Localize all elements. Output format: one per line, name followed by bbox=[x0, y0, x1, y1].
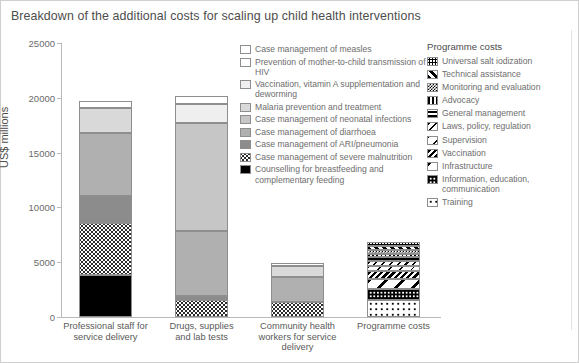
y-tick-mark bbox=[57, 153, 62, 154]
legend-item-label: Technical assistance bbox=[442, 69, 521, 79]
chart-page: Breakdown of the additional costs for sc… bbox=[0, 0, 579, 363]
legend-item-label: Vaccination, vitamin A supplementation a… bbox=[255, 79, 430, 99]
legend-item-label: Counselling for breastfeeding and comple… bbox=[255, 164, 430, 184]
y-tick-mark bbox=[57, 317, 62, 318]
legend-item: Universal salt iodization bbox=[427, 56, 573, 66]
legend-item-label: Malaria prevention and treatment bbox=[255, 102, 381, 112]
legend-item-label: Monitoring and evaluation bbox=[442, 82, 540, 92]
bar-segment bbox=[367, 250, 420, 254]
y-tick-label: 15000 bbox=[29, 147, 55, 158]
legend-swatch-icon bbox=[427, 136, 438, 145]
legend-swatch-icon bbox=[240, 115, 251, 124]
legend-item-label: Case management of neonatal infections bbox=[255, 114, 411, 124]
legend-item: Supervision bbox=[427, 135, 573, 145]
legend-item: Information, education, communication bbox=[427, 174, 573, 194]
x-axis-category-label: Programme costs bbox=[342, 321, 446, 332]
legend-item: Training bbox=[427, 197, 573, 207]
legend-item-label: Advocacy bbox=[442, 95, 479, 105]
bar-segment bbox=[367, 254, 420, 257]
bar-segment bbox=[79, 108, 132, 133]
legend-swatch-icon bbox=[240, 80, 251, 89]
legend-item-label: Case management of measles bbox=[255, 44, 372, 54]
legend-item: Case management of severe malnutrition bbox=[240, 152, 430, 162]
bar-segment bbox=[367, 300, 420, 317]
bar-segment bbox=[271, 266, 324, 277]
legend-swatch-icon bbox=[240, 103, 251, 112]
legend-item: General management bbox=[427, 108, 573, 118]
bar-segment bbox=[175, 296, 228, 300]
legend-item-label: Infrastructure bbox=[442, 161, 493, 171]
legend-swatch-icon bbox=[240, 153, 251, 162]
legend-item-label: Case management of severe malnutrition bbox=[255, 152, 412, 162]
bar-segment bbox=[367, 266, 420, 271]
legend-item: Vaccination, vitamin A supplementation a… bbox=[240, 79, 430, 99]
legend-swatch-icon bbox=[240, 58, 251, 67]
bar-segment bbox=[271, 302, 324, 317]
bar-segment bbox=[79, 223, 132, 275]
legend-swatch-icon bbox=[427, 96, 438, 105]
y-tick-label: 5000 bbox=[34, 257, 55, 268]
x-axis-category-label: Community healthworkers for servicedeliv… bbox=[246, 321, 350, 353]
bar-segment bbox=[79, 275, 132, 317]
legend-swatch-icon bbox=[427, 83, 438, 92]
legend-interventions: Case management of measlesPrevention of … bbox=[240, 44, 430, 187]
legend-item-label: Universal salt iodization bbox=[442, 56, 532, 66]
bar-segment bbox=[367, 279, 420, 289]
y-tick-mark bbox=[57, 43, 62, 44]
bar-stack bbox=[79, 43, 132, 317]
x-axis-category-label: Drugs, suppliesand lab tests bbox=[150, 321, 254, 342]
legend-item-label: Laws, policy, regulation bbox=[442, 121, 531, 131]
legend-swatch-icon bbox=[240, 45, 251, 54]
legend-item: Monitoring and evaluation bbox=[427, 82, 573, 92]
y-tick-mark bbox=[57, 262, 62, 263]
legend-item-label: Supervision bbox=[442, 135, 487, 145]
legend-item-label: Training bbox=[442, 197, 473, 207]
bar-segment bbox=[175, 123, 228, 231]
bar-segment bbox=[271, 263, 324, 266]
legend-item: Prevention of mother-to-child transmissi… bbox=[240, 57, 430, 77]
legend-swatch-icon bbox=[427, 57, 438, 66]
bar-segment bbox=[367, 246, 420, 250]
bar-segment bbox=[367, 261, 420, 266]
legend-swatch-icon bbox=[240, 128, 251, 137]
bar-segment bbox=[175, 104, 228, 123]
frame-border-top bbox=[0, 0, 579, 1]
legend-item: Vaccination bbox=[427, 148, 573, 158]
y-axis-ticks: 2500020000150001000050000 bbox=[0, 0, 55, 363]
bar-segment bbox=[367, 257, 420, 261]
bar-segment bbox=[79, 196, 132, 223]
legend-item: Case management of diarrhoea bbox=[240, 127, 430, 137]
legend-swatch-icon bbox=[427, 198, 438, 207]
legend-programme-costs: Programme costs Universal salt iodizatio… bbox=[427, 41, 573, 210]
legend-swatch-icon bbox=[427, 162, 438, 171]
bar-segment bbox=[367, 271, 420, 279]
legend-programme-costs-heading: Programme costs bbox=[427, 41, 573, 52]
legend-item-label: Vaccination bbox=[442, 148, 486, 158]
legend-item: Advocacy bbox=[427, 95, 573, 105]
legend-item: Infrastructure bbox=[427, 161, 573, 171]
legend-item: Counselling for breastfeeding and comple… bbox=[240, 164, 430, 184]
bar-segment bbox=[79, 101, 132, 108]
legend-swatch-icon bbox=[427, 109, 438, 118]
legend-item: Laws, policy, regulation bbox=[427, 121, 573, 131]
legend-item: Technical assistance bbox=[427, 69, 573, 79]
legend-item-label: Case management of ARI/pneumonia bbox=[255, 139, 398, 149]
bar-segment bbox=[175, 96, 228, 104]
legend-item: Case management of neonatal infections bbox=[240, 114, 430, 124]
bar-segment bbox=[175, 231, 228, 296]
x-axis-line bbox=[61, 317, 441, 318]
legend-item-label: Prevention of mother-to-child transmissi… bbox=[255, 57, 430, 77]
chart-title: Breakdown of the additional costs for sc… bbox=[11, 9, 421, 23]
legend-swatch-icon bbox=[240, 165, 251, 174]
legend-swatch-icon bbox=[427, 122, 438, 131]
y-tick-mark bbox=[57, 207, 62, 208]
legend-item-label: General management bbox=[442, 108, 525, 118]
legend-item: Malaria prevention and treatment bbox=[240, 102, 430, 112]
bar-segment bbox=[271, 277, 324, 302]
x-axis-category-label: Professional staff forservice delivery bbox=[54, 321, 158, 342]
y-tick-mark bbox=[57, 98, 62, 99]
y-tick-label: 25000 bbox=[29, 38, 55, 49]
legend-swatch-icon bbox=[427, 175, 438, 184]
bar-segment bbox=[175, 300, 228, 317]
legend-swatch-icon bbox=[427, 70, 438, 79]
